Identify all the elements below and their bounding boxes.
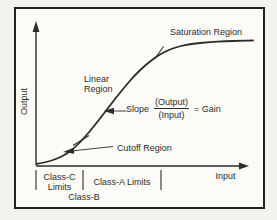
slope-prefix-label: Slope	[126, 104, 149, 114]
class-a-limits-label: Class-A Limits	[84, 177, 160, 187]
class-c-line2: Limits	[36, 182, 83, 192]
cutoff-region-label: Cutoff Region	[117, 143, 172, 153]
slope-numerator-label: (Output)	[154, 97, 189, 109]
slope-equation: Slope (Output) (Input) = Gain	[126, 97, 221, 120]
linear-region-line1: Linear	[84, 74, 113, 84]
figure-amplifier-transfer-curve: Output Input Saturation Region Linear Re…	[0, 0, 277, 220]
curve-boundary-tick	[73, 136, 89, 146]
class-c-line1: Class-C	[36, 172, 83, 182]
class-b-label: Class-B	[60, 192, 108, 202]
linear-region-label: Linear Region	[84, 74, 113, 94]
x-axis-arrowhead-icon	[239, 163, 249, 170]
slope-denominator-label: (Input)	[159, 109, 185, 120]
y-axis-label: Output	[19, 84, 32, 120]
y-axis-arrowhead-icon	[33, 21, 40, 32]
slope-fraction: (Output) (Input)	[154, 97, 189, 120]
saturation-region-label: Saturation Region	[170, 27, 242, 37]
slope-pointer-arrowhead-icon	[104, 108, 114, 114]
slope-result-label: = Gain	[194, 104, 221, 114]
cutoff-pointer-line	[72, 147, 113, 151]
x-axis-label: Input	[203, 171, 248, 181]
class-c-limits-label: Class-C Limits	[36, 172, 83, 192]
linear-region-line2: Region	[84, 84, 113, 94]
